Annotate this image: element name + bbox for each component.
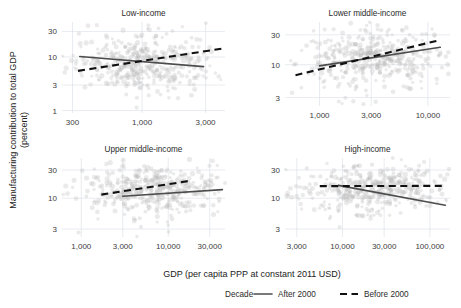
y-tick-label: 10 bbox=[271, 194, 280, 203]
x-axis-title: GDP (per capita PPP at constant 2011 USD… bbox=[163, 269, 341, 279]
panel-low-income: 1310303001,0003,000Low-income bbox=[48, 9, 225, 127]
y-tick-label: 3 bbox=[53, 225, 58, 234]
x-tick-label: 10,000 bbox=[330, 242, 355, 251]
y-tick-label: 3 bbox=[53, 81, 58, 90]
x-tick-label: 3,000 bbox=[287, 242, 308, 251]
x-tick-label: 3,000 bbox=[361, 111, 382, 120]
panel-title-lower-middle-income: Lower middle-income bbox=[329, 9, 407, 18]
legend-title: Decade bbox=[225, 290, 254, 299]
x-tick-label: 30,000 bbox=[197, 242, 222, 251]
x-tick-label: 3,000 bbox=[113, 242, 134, 251]
y-tick-label: 30 bbox=[48, 27, 57, 36]
x-tick-label: 10,000 bbox=[156, 242, 181, 251]
panel-title-high-income: High-income bbox=[345, 145, 391, 154]
y-axis-title: Manufacturing contribution to total GDP(… bbox=[8, 51, 29, 209]
y-tick-label: 1 bbox=[53, 107, 58, 116]
y-tick-label: 10 bbox=[48, 194, 57, 203]
faceted-scatter-chart: 1310303001,0003,000Low-income310301,0003… bbox=[0, 0, 461, 308]
x-tick-label: 3,000 bbox=[196, 118, 217, 127]
panel-high-income: 310303,00010,00030,000100,000High-income bbox=[271, 145, 451, 251]
legend-label-before-2000: Before 2000 bbox=[364, 290, 409, 299]
x-tick-label: 1,000 bbox=[132, 118, 153, 127]
x-tick-label: 300 bbox=[66, 118, 80, 127]
panel-upper-middle-income: 310301,0003,00010,00030,000Upper middle-… bbox=[48, 145, 227, 251]
chart-figure: 1310303001,0003,000Low-income310301,0003… bbox=[0, 0, 461, 308]
x-tick-label: 1,000 bbox=[71, 242, 92, 251]
y-tick-label: 10 bbox=[48, 53, 57, 62]
y-tick-label: 30 bbox=[48, 166, 57, 175]
y-tick-label: 30 bbox=[271, 31, 280, 40]
x-tick-label: 10,000 bbox=[416, 111, 441, 120]
x-tick-label: 30,000 bbox=[372, 242, 397, 251]
y-tick-label: 3 bbox=[276, 225, 281, 234]
y-axis-title-line2: (percent) bbox=[19, 112, 29, 148]
x-tick-label: 100,000 bbox=[415, 242, 444, 251]
y-axis-title-line1: Manufacturing contribution to total GDP bbox=[8, 51, 18, 209]
y-tick-label: 30 bbox=[271, 166, 280, 175]
legend: DecadeAfter 2000Before 2000 bbox=[225, 290, 409, 299]
legend-label-after-2000: After 2000 bbox=[278, 290, 316, 299]
panel-title-low-income: Low-income bbox=[121, 9, 166, 18]
panel-title-upper-middle-income: Upper middle-income bbox=[105, 145, 183, 154]
y-tick-label: 3 bbox=[276, 94, 281, 103]
y-tick-label: 10 bbox=[271, 61, 280, 70]
panel-lower-middle-income: 310301,0003,00010,000Lower middle-income bbox=[271, 9, 451, 120]
x-tick-label: 1,000 bbox=[310, 111, 331, 120]
